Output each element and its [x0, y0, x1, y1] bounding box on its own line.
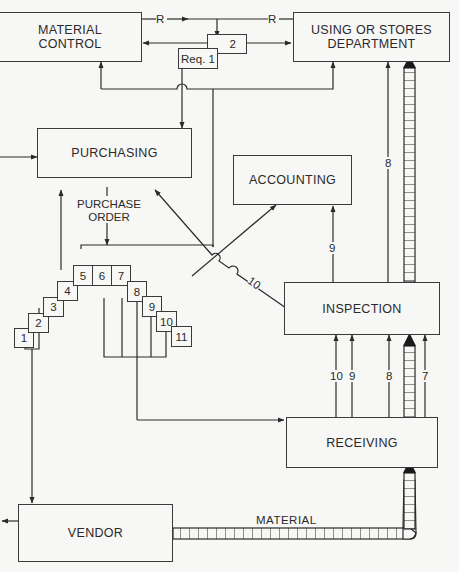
edge-label-8-into-inspection: 8	[386, 370, 392, 382]
using-stores-department-box[interactable]: USING OR STORES DEPARTMENT	[293, 12, 450, 62]
po-copy-6[interactable]: 6	[92, 265, 112, 286]
material-flow-label: MATERIAL	[256, 514, 317, 526]
purchasing-box[interactable]: PURCHASING	[37, 128, 192, 178]
inspection-box[interactable]: INSPECTION	[284, 282, 440, 335]
edge-label-8-to-using: 8	[385, 157, 391, 169]
purchase-order-label: PURCHASE ORDER	[77, 198, 141, 224]
edge-label-r-left: R	[156, 13, 164, 25]
receiving-box[interactable]: RECEIVING	[286, 417, 438, 468]
edge-label-10-into-inspection: 10	[330, 370, 343, 382]
edge-label-9-to-accounting: 9	[329, 242, 335, 254]
accounting-box[interactable]: ACCOUNTING	[233, 155, 352, 205]
edge-label-7-into-inspection: 7	[422, 370, 428, 382]
po-copy-11[interactable]: 11	[171, 326, 192, 347]
material-control-box[interactable]: MATERIAL CONTROL	[0, 12, 142, 62]
vendor-box[interactable]: VENDOR	[18, 504, 173, 562]
edge-label-9-into-inspection: 9	[349, 370, 355, 382]
edge-label-r-right: R	[268, 13, 276, 25]
requisition-copy-1[interactable]: Req. 1	[178, 48, 218, 69]
po-copy-5[interactable]: 5	[73, 265, 93, 286]
